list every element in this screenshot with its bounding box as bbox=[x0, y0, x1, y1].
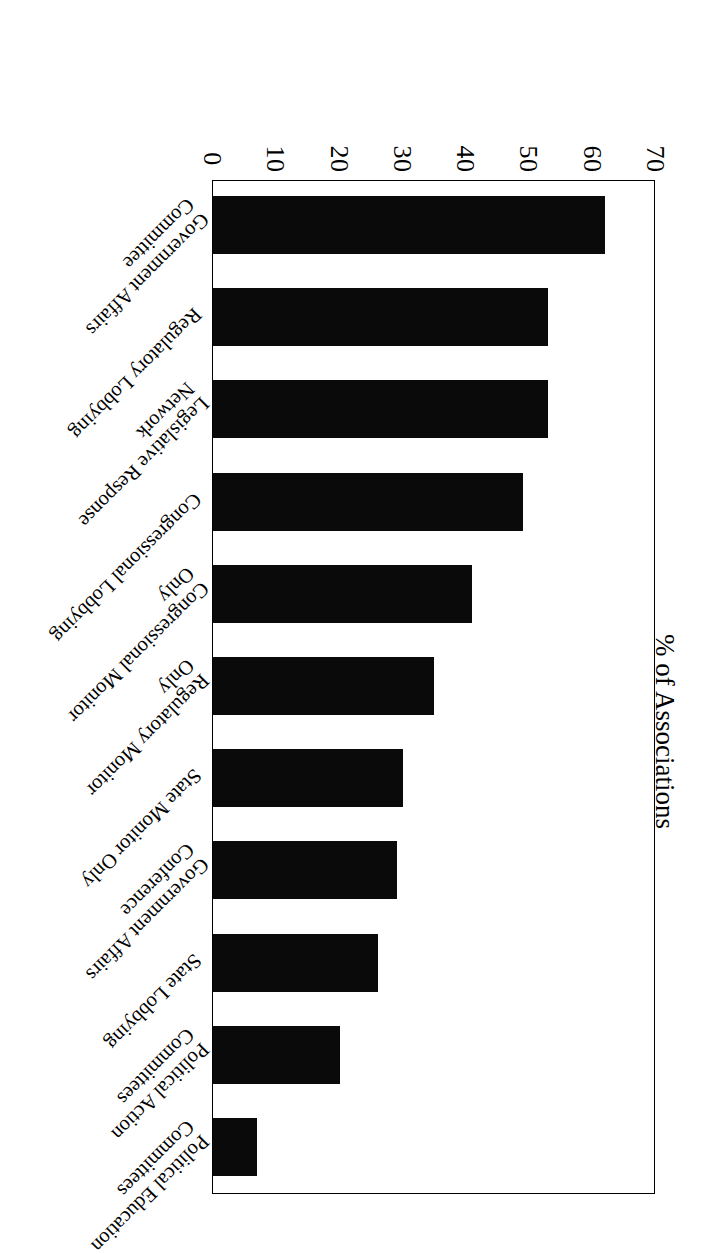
bar bbox=[213, 380, 548, 438]
value-tick-label: 40 bbox=[452, 139, 478, 179]
value-tick-label: 10 bbox=[262, 139, 288, 179]
bar-row bbox=[213, 565, 656, 623]
bar-row bbox=[213, 1026, 656, 1084]
bar bbox=[213, 657, 435, 715]
bar bbox=[213, 1026, 340, 1084]
bar-row bbox=[213, 749, 656, 807]
bar bbox=[213, 565, 472, 623]
bar bbox=[213, 196, 605, 254]
bar-row bbox=[213, 196, 656, 254]
value-tick-label: 50 bbox=[515, 139, 541, 179]
plot-area bbox=[212, 180, 655, 1194]
bar-row bbox=[213, 934, 656, 992]
bar-row bbox=[213, 841, 656, 899]
value-tick-label: 60 bbox=[579, 139, 605, 179]
bar-row bbox=[213, 473, 656, 531]
value-tick-label: 70 bbox=[642, 139, 668, 179]
bar-row bbox=[213, 380, 656, 438]
value-tick-label: 30 bbox=[389, 139, 415, 179]
bar bbox=[213, 749, 403, 807]
bar bbox=[213, 1118, 257, 1176]
value-tick-label: 20 bbox=[326, 139, 352, 179]
bar-row bbox=[213, 288, 656, 346]
bar-row bbox=[213, 1118, 656, 1176]
bar bbox=[213, 934, 378, 992]
value-axis: 010203040506070 bbox=[212, 75, 655, 180]
category-axis-labels: Government AffairsCommitteeRegulatory Lo… bbox=[0, 115, 212, 1215]
bars-layer bbox=[213, 181, 654, 1193]
bar-row bbox=[213, 657, 656, 715]
bar bbox=[213, 473, 523, 531]
bar bbox=[213, 841, 397, 899]
bar bbox=[213, 288, 548, 346]
